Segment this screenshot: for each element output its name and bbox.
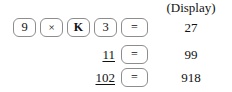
calculator-keystroke-figure: 9 × K 3 = 11 = 102 = (Display) 27 99 918 xyxy=(0,0,232,92)
display-column-header: (Display) xyxy=(150,1,232,14)
display-value: 918 xyxy=(150,71,232,84)
constant-k-key[interactable]: K xyxy=(67,18,90,37)
digit-3-key[interactable]: 3 xyxy=(94,18,117,37)
display-value: 27 xyxy=(150,21,232,34)
equals-key-label: = xyxy=(131,48,138,60)
equals-key[interactable]: = xyxy=(121,18,148,37)
equals-key-label: = xyxy=(131,21,138,33)
equals-key[interactable]: = xyxy=(121,45,148,64)
keystroke-row: 11 = xyxy=(0,43,148,65)
multiply-key-label: × xyxy=(48,22,54,33)
keystroke-row: 102 = xyxy=(0,66,148,88)
multiply-key[interactable]: × xyxy=(40,18,63,37)
digit-3-key-label: 3 xyxy=(102,21,108,34)
digit-9-key[interactable]: 9 xyxy=(13,18,36,37)
digit-9-key-label: 9 xyxy=(21,21,27,34)
constant-k-key-label: K xyxy=(74,21,83,33)
operand-entry: 11 xyxy=(102,48,117,61)
keystroke-row: 9 × K 3 = xyxy=(0,16,148,38)
operand-entry: 102 xyxy=(96,71,118,84)
equals-key[interactable]: = xyxy=(121,68,148,87)
equals-key-label: = xyxy=(131,71,138,83)
display-value: 99 xyxy=(150,48,232,61)
